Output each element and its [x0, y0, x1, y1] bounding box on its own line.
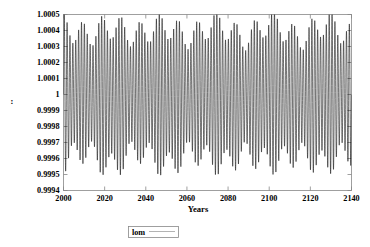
x-tick-label: 2000	[55, 194, 71, 203]
x-tick-label: 2120	[302, 194, 318, 203]
y-axis-title: :	[11, 96, 14, 106]
y-tick-label: 0.9996	[37, 154, 60, 163]
legend-entry-label: lom	[132, 228, 145, 237]
x-tick-label: 2060	[179, 194, 195, 203]
y-axis-tick-labels: 0.99940.99950.99960.99970.99980.999911.0…	[37, 10, 60, 195]
data-series-group	[64, 15, 352, 176]
y-tick-label: 1	[55, 90, 59, 99]
y-tick-label: 0.9997	[37, 138, 60, 147]
y-tick-label: 1.0001	[37, 74, 60, 83]
series-line-lom	[64, 15, 352, 176]
plot-canvas: 0.99940.99950.99960.99970.99980.999911.0…	[0, 0, 370, 247]
y-tick-label: 0.9999	[37, 106, 60, 115]
x-tick-label: 2080	[220, 194, 236, 203]
y-tick-label: 1.0004	[37, 26, 60, 35]
x-axis-title: Years	[188, 204, 209, 214]
x-tick-label: 2020	[96, 194, 112, 203]
y-tick-label: 1.0003	[37, 42, 60, 51]
legend: lom	[129, 227, 179, 238]
y-tick-label: 0.9998	[37, 122, 60, 131]
y-tick-label: 0.9995	[37, 170, 60, 179]
y-tick-label: 1.0005	[37, 10, 60, 19]
x-axis-tick-labels: 20002020204020602080210021202140	[55, 194, 359, 203]
chart-container: 0.99940.99950.99960.99970.99980.999911.0…	[0, 0, 370, 247]
x-tick-label: 2040	[138, 194, 154, 203]
x-tick-label: 2140	[343, 194, 359, 203]
x-tick-label: 2100	[261, 194, 277, 203]
y-tick-label: 1.0002	[37, 58, 60, 67]
